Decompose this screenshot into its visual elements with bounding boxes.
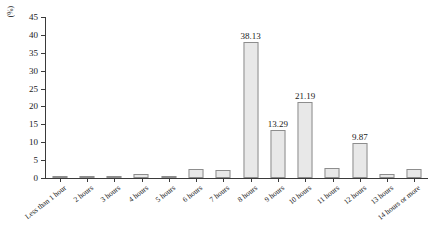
bar[interactable] (407, 169, 422, 178)
y-axis-unit-label: (%) (6, 6, 15, 17)
y-axis-tick-label: 25 (16, 84, 38, 93)
y-axis-tick (41, 106, 45, 107)
bar-group[interactable] (210, 17, 237, 178)
y-axis-tick-label: 20 (16, 102, 38, 111)
x-axis-tick-label: 11 hours (315, 184, 340, 206)
y-axis-tick (41, 35, 45, 36)
bar-group[interactable] (401, 17, 428, 178)
bar[interactable]: 21.19 (298, 102, 313, 178)
y-axis-tick-label: 10 (16, 138, 38, 147)
bar-value-label: 9.87 (352, 133, 368, 142)
bar-group[interactable] (373, 17, 400, 178)
x-axis-tick (223, 178, 224, 182)
bar-value-label: 13.29 (268, 120, 288, 129)
y-axis-tick (41, 17, 45, 18)
x-axis-tick-label: 3 hours (100, 184, 122, 204)
x-axis-tick (114, 178, 115, 182)
bar-group[interactable]: 9.87 (346, 17, 373, 178)
bar-group[interactable] (182, 17, 209, 178)
x-axis-tick-label: 10 hours (288, 184, 313, 206)
x-axis-tick-label: 8 hours (236, 184, 258, 204)
x-axis-tick (360, 178, 361, 182)
y-axis-tick (41, 160, 45, 161)
x-axis-tick (305, 178, 306, 182)
y-axis-tick-label: 40 (16, 30, 38, 39)
x-axis-line (45, 178, 428, 179)
x-axis-tick (169, 178, 170, 182)
bar-value-label: 21.19 (295, 92, 315, 101)
bar-group[interactable] (319, 17, 346, 178)
bar-group[interactable] (73, 17, 100, 178)
bar[interactable]: 9.87 (352, 143, 367, 178)
x-axis-tick-label: 7 hours (209, 184, 231, 204)
y-axis-tick-label: 35 (16, 48, 38, 57)
y-axis-tick-label: 45 (16, 13, 38, 22)
y-axis-tick (41, 124, 45, 125)
plot-area: 38.1313.2921.199.87 (46, 17, 428, 178)
y-axis-tick (41, 89, 45, 90)
x-axis-tick (60, 178, 61, 182)
y-axis-tick (41, 53, 45, 54)
x-axis-tick-label: 6 hours (181, 184, 203, 204)
bar[interactable]: 13.29 (270, 130, 285, 178)
x-axis-tick (387, 178, 388, 182)
x-axis-tick-label: 2 hours (72, 184, 94, 204)
y-axis-tick-label: 0 (16, 174, 38, 183)
bar[interactable] (325, 168, 340, 178)
bar-group[interactable] (155, 17, 182, 178)
y-axis-tick-label: 30 (16, 66, 38, 75)
x-axis-tick (87, 178, 88, 182)
bar[interactable]: 38.13 (243, 42, 258, 178)
y-axis-tick (41, 71, 45, 72)
x-axis-tick (251, 178, 252, 182)
y-axis-tick (41, 142, 45, 143)
x-axis-tick-label: 9 hours (263, 184, 285, 204)
x-axis-tick (142, 178, 143, 182)
y-axis-tick-label: 15 (16, 120, 38, 129)
x-axis-tick (333, 178, 334, 182)
x-axis-tick-label: 5 hours (154, 184, 176, 204)
x-axis-tick (414, 178, 415, 182)
bar-group[interactable] (128, 17, 155, 178)
bar-group[interactable]: 13.29 (264, 17, 291, 178)
bar-group[interactable] (46, 17, 73, 178)
bar-value-label: 38.13 (241, 32, 261, 41)
bar[interactable] (189, 169, 204, 178)
y-axis-tick-label: 5 (16, 156, 38, 165)
bar-group[interactable]: 21.19 (292, 17, 319, 178)
x-axis-tick (278, 178, 279, 182)
x-axis-tick-label: 12 hours (342, 184, 367, 206)
bar-chart: (%) 051015202530354045 38.1313.2921.199.… (0, 0, 438, 248)
x-axis-tick-label: 4 hours (127, 184, 149, 204)
bar-group[interactable] (101, 17, 128, 178)
y-axis-tick (41, 178, 45, 179)
bar-group[interactable]: 38.13 (237, 17, 264, 178)
x-axis-tick (196, 178, 197, 182)
bar[interactable] (216, 170, 231, 178)
